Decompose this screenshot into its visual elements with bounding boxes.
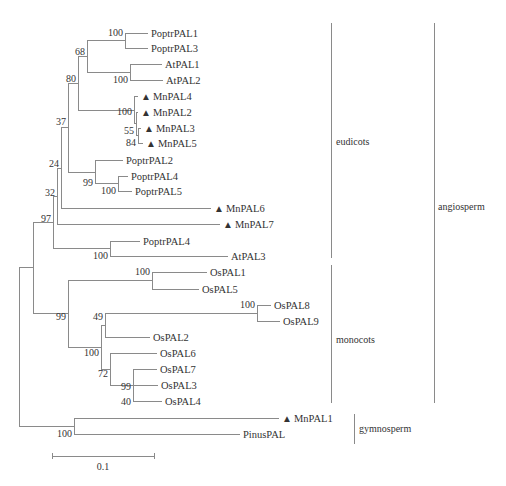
leaf-label: PoptrPAL5 (135, 186, 182, 197)
leaf-label: OsPAL5 (202, 284, 238, 295)
bootstrap-value: 49 (93, 311, 103, 322)
bootstrap-value: 100 (117, 106, 132, 117)
leaf-label: OsPAL1 (210, 267, 246, 278)
leaf-label: OsPAL4 (165, 396, 202, 407)
leaf-label: MnPAL1 (294, 413, 333, 424)
leaf-label: AtPAL2 (166, 75, 201, 86)
bootstrap-value: 40 (121, 396, 131, 407)
leaf-label: PoptrPAL2 (126, 155, 173, 166)
bootstrap-value: 99 (83, 177, 93, 188)
bootstrap-value: 68 (75, 46, 85, 57)
bootstrap-value: 32 (45, 187, 55, 198)
clade-label-gymnosperm: gymnosperm (359, 423, 411, 434)
leaf-label: MnPAL5 (158, 138, 197, 149)
leaf-label: MnPAL6 (226, 203, 265, 214)
leaf-label: PoptrPAL1 (151, 28, 198, 39)
clade-label-monocots: monocots (336, 334, 375, 345)
leaf-label: OsPAL3 (161, 380, 197, 391)
leaf-label: PoptrPAL4 (131, 171, 179, 182)
bootstrap-value: 100 (240, 299, 255, 310)
leaf-labels: PoptrPAL1PoptrPAL3AtPAL1AtPAL2▲MnPAL4▲Mn… (126, 28, 333, 440)
triangle-marker-icon: ▲ (282, 413, 292, 424)
triangle-marker-icon: ▲ (146, 138, 156, 149)
triangle-marker-icon: ▲ (223, 219, 233, 230)
bootstrap-value: 80 (66, 73, 76, 84)
leaf-label: PoptrPAL4 (143, 236, 191, 247)
leaf-label: PinusPAL (243, 429, 285, 440)
leaf-label: OsPAL8 (274, 300, 310, 311)
leaf-label: MnPAL7 (235, 219, 274, 230)
bootstrap-value: 100 (84, 347, 99, 358)
leaf-label: OsPAL9 (283, 316, 319, 327)
leaf-label: MnPAL4 (153, 91, 192, 102)
bootstrap-value: 100 (108, 27, 123, 38)
bootstrap-value: 100 (135, 266, 150, 277)
phylogenetic-tree: PoptrPAL1PoptrPAL3AtPAL1AtPAL2▲MnPAL4▲Mn… (0, 0, 506, 486)
bootstrap-value: 37 (56, 116, 66, 127)
leaf-label: OsPAL7 (160, 364, 196, 375)
bootstrap-value: 72 (98, 368, 108, 379)
bootstrap-values: 1006810080100558437991002432971001001009… (41, 27, 255, 439)
scale-bar-label: 0.1 (97, 461, 110, 472)
triangle-marker-icon: ▲ (141, 107, 151, 118)
triangle-marker-icon: ▲ (144, 123, 154, 134)
leaf-label: OsPAL6 (160, 348, 196, 359)
leaf-label: OsPAL2 (153, 332, 189, 343)
bootstrap-value: 100 (101, 185, 116, 196)
bootstrap-value: 84 (126, 137, 136, 148)
figure-caption-blurred (120, 470, 420, 478)
bootstrap-value: 100 (113, 74, 128, 85)
clade-label-eudicots: eudicots (336, 136, 369, 147)
leaf-label: AtPAL3 (231, 251, 266, 262)
leaf-label: MnPAL3 (156, 123, 195, 134)
bootstrap-value: 55 (124, 125, 134, 136)
leaf-label: AtPAL1 (165, 59, 200, 70)
leaf-label: PoptrPAL3 (151, 43, 198, 54)
leaf-label: MnPAL2 (153, 107, 192, 118)
clade-brackets: eudicotsmonocotsangiospermgymnosperm (331, 23, 485, 444)
triangle-marker-icon: ▲ (214, 203, 224, 214)
triangle-marker-icon: ▲ (141, 91, 151, 102)
bootstrap-value: 24 (49, 158, 59, 169)
bootstrap-value: 100 (57, 428, 72, 439)
bootstrap-value: 97 (41, 213, 51, 224)
bootstrap-value: 99 (121, 381, 131, 392)
clade-label-angiosperm: angiosperm (438, 201, 485, 212)
bootstrap-value: 99 (56, 311, 66, 322)
bootstrap-value: 100 (93, 250, 108, 261)
